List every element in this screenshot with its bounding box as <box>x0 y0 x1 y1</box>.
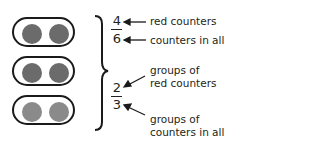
fraction-denominator: 6 <box>111 32 123 45</box>
arrow-left-icon <box>124 19 146 25</box>
arrow-left-icon <box>124 37 146 43</box>
fraction-numerator: 2 <box>111 81 123 94</box>
label-groups-in-all-1: groups of <box>150 113 199 125</box>
label-groups-of-red-1: groups of <box>150 64 199 76</box>
curly-brace-icon <box>95 16 108 130</box>
label-groups-in-all-2: counters in all <box>150 126 224 138</box>
arrow-diagonal-icon <box>124 104 145 115</box>
arrow-diagonal-icon <box>124 76 145 87</box>
fraction-numerator: 4 <box>111 14 123 27</box>
label-red-counters: red counters <box>150 15 216 27</box>
label-groups-of-red-2: red counters <box>150 77 216 89</box>
fraction-denominator: 3 <box>111 98 123 111</box>
label-counters-in-all: counters in all <box>150 34 224 46</box>
